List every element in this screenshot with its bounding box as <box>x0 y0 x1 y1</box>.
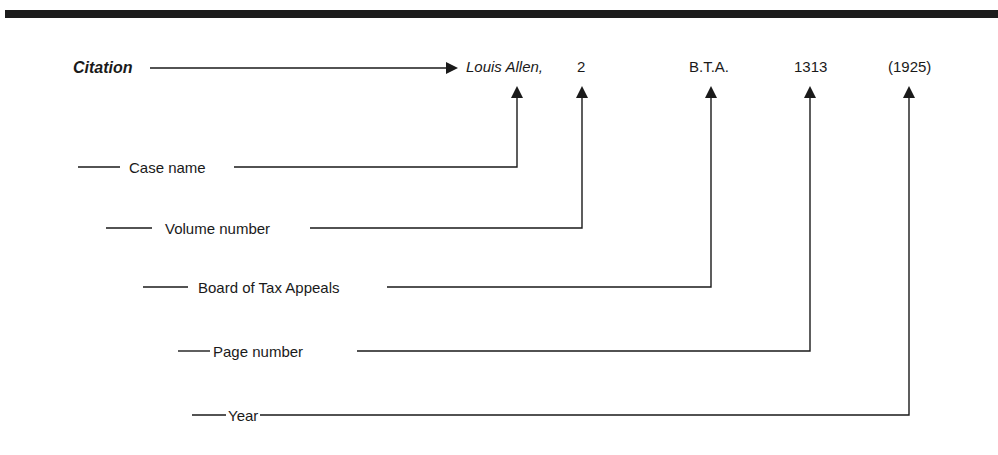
year-label: Year <box>228 407 258 425</box>
reporter-label: Board of Tax Appeals <box>198 279 340 297</box>
volume-value: 2 <box>577 58 585 76</box>
page-connector <box>357 98 810 351</box>
case-name-value: Louis Allen, <box>466 58 543 76</box>
year-connector <box>260 98 909 415</box>
citation-arrow <box>150 62 458 74</box>
reporter-value: B.T.A. <box>689 58 729 76</box>
year-value: (1925) <box>888 58 931 76</box>
volume-number-label: Volume number <box>165 220 270 238</box>
case-connector <box>234 98 517 167</box>
reporter-connector <box>387 98 711 287</box>
volume-connector <box>310 98 582 228</box>
page-number-label: Page number <box>213 343 303 361</box>
page-value: 1313 <box>794 58 827 76</box>
case-name-label: Case name <box>129 159 206 177</box>
citation-label: Citation <box>73 59 133 77</box>
up-arrowheads <box>511 86 915 98</box>
